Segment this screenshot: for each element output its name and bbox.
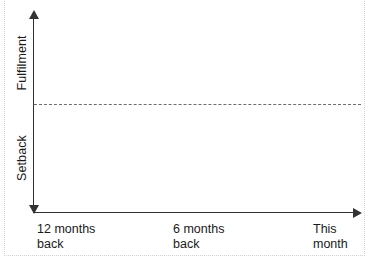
- x-axis-label-12-months-back: 12 months back: [37, 222, 95, 252]
- mood-timeline-chart: Fulfilment Setback 12 months back 6 mont…: [0, 0, 372, 264]
- y-axis-label-fulfilment: Fulfilment: [14, 28, 30, 98]
- x-axis-line: [33, 212, 358, 213]
- chart-page: Fulfilment Setback 12 months back 6 mont…: [0, 0, 372, 264]
- x-axis-right-arrow-icon: [353, 208, 362, 218]
- x-axis-label-this-month: This month: [313, 222, 348, 252]
- y-axis-line: [33, 16, 34, 213]
- neutral-baseline: [34, 104, 361, 105]
- x-axis-label-6-months-back: 6 months back: [173, 222, 224, 252]
- y-axis-label-setback: Setback: [14, 130, 30, 186]
